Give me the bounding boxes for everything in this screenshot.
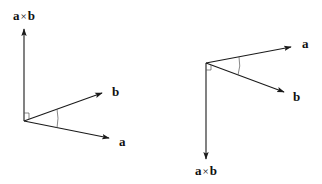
right-b-label: b <box>293 89 300 104</box>
left-figure: a×b b a <box>13 8 126 149</box>
right-b-vector-arrow <box>206 63 284 92</box>
left-cross-label: a×b <box>13 8 35 23</box>
left-angle-arc <box>57 109 58 128</box>
right-angle-arc <box>238 57 240 75</box>
right-cross-label: a×b <box>195 163 217 178</box>
right-right-angle-marker <box>206 65 211 70</box>
left-b-vector-arrow <box>24 93 102 121</box>
right-a-vector-arrow <box>206 47 291 63</box>
left-b-label: b <box>112 84 119 99</box>
right-a-label: a <box>302 36 309 51</box>
right-figure: a b a×b <box>195 36 309 178</box>
left-a-vector-arrow <box>24 121 109 138</box>
left-a-label: a <box>119 134 126 149</box>
cross-product-diagram: a×b b a a b a×b <box>0 0 322 184</box>
left-right-angle-marker <box>24 113 29 119</box>
